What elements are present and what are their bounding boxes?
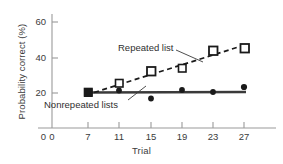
x-tick-label-15: 15 xyxy=(138,131,164,142)
y-tick-label-20: 20 xyxy=(24,87,46,98)
nonrepeated-trend-line xyxy=(88,92,246,93)
x-tick-label-7: 7 xyxy=(75,131,101,142)
x-axis-label: Trial xyxy=(0,145,283,156)
x-tick-label-23: 23 xyxy=(200,131,226,142)
nonrepeated-lists-annotation: Nonrepeated lists xyxy=(44,99,118,110)
y-tick-label-40: 40 xyxy=(24,52,46,63)
y-tick-label-60: 60 xyxy=(24,16,46,27)
chart-screenshot: Probability correct (%) 60 40 20 0 0 7 1… xyxy=(0,0,283,164)
repeated-list-annotation: Repeated list xyxy=(118,42,173,53)
x-tick-label-11: 11 xyxy=(106,131,132,142)
repeated-leader-line xyxy=(176,50,203,62)
x-tick-label-27: 27 xyxy=(231,131,257,142)
x-tick-label-0: 0 xyxy=(39,131,65,142)
x-axis-ticks xyxy=(88,122,244,128)
y-axis-ticks xyxy=(52,22,58,93)
x-tick-label-19: 19 xyxy=(169,131,195,142)
